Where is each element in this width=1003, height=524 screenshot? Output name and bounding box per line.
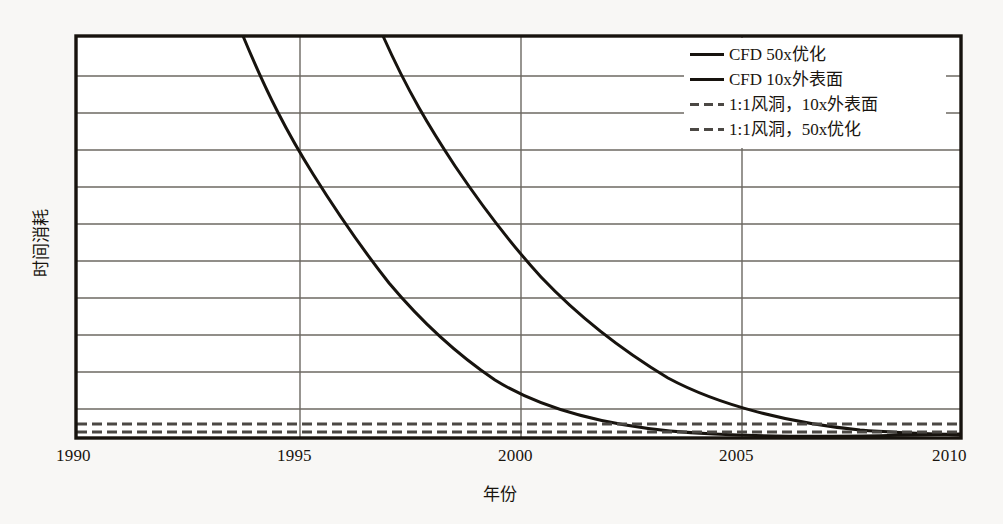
legend-swatch-solid-icon — [690, 74, 724, 86]
legend-item: CFD 50x优化 — [690, 42, 940, 67]
legend-item-label: 1:1风洞，50x优化 — [729, 121, 861, 138]
y-axis-title: 时间消耗 — [27, 198, 52, 288]
x-tick-label-2010: 2010 — [932, 446, 967, 466]
x-tick-label-2005: 2005 — [719, 446, 754, 466]
chart-figure: 1990 1995 2000 2005 2010 年份 时间消耗 CFD 50x… — [0, 0, 1003, 524]
legend-item-label: CFD 50x优化 — [729, 46, 826, 63]
legend-item: 1:1风洞，50x优化 — [690, 117, 940, 142]
legend-item: CFD 10x外表面 — [690, 67, 940, 92]
legend-item-label: CFD 10x外表面 — [729, 71, 843, 88]
x-tick-label-1995: 1995 — [277, 446, 312, 466]
legend-swatch-dashed-icon — [690, 99, 724, 111]
legend-swatch-dashed-icon — [690, 124, 724, 136]
x-axis-title: 年份 — [483, 480, 517, 505]
x-tick-label-1990: 1990 — [56, 446, 91, 466]
x-tick-label-2000: 2000 — [498, 446, 533, 466]
legend-swatch-solid-icon — [690, 49, 724, 61]
chart-legend: CFD 50x优化 CFD 10x外表面 1:1风洞，10x外表面 1:1风洞，… — [690, 42, 940, 142]
legend-item-label: 1:1风洞，10x外表面 — [729, 96, 878, 113]
legend-item: 1:1风洞，10x外表面 — [690, 92, 940, 117]
